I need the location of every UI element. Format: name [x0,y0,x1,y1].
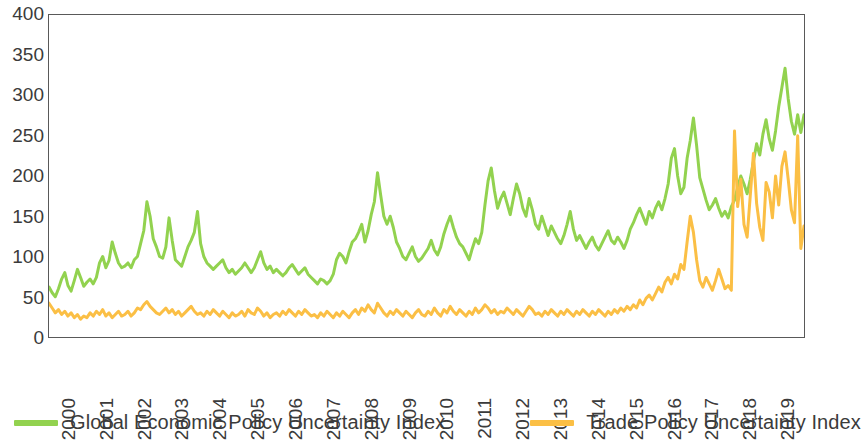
y-axis-tick-label: 200 [12,166,44,185]
legend-entry-trade-policy-uncertainty-index: Trade Policy Uncertainty Index [530,411,861,434]
x-axis-tick-labels: 2000200120022003200420052006200720082009… [48,340,805,402]
y-axis-tick-labels: 050100150200250300350400 [0,0,44,340]
y-axis-tick-label: 250 [12,126,44,145]
legend-label-trade-policy-uncertainty-index: Trade Policy Uncertainty Index [586,411,861,434]
legend-swatch-orange-line [530,420,574,426]
plot-area [48,14,805,338]
legend-label-global-economic-policy-uncertainty-index: Global Economic Policy Uncertainty Index [70,411,445,434]
y-axis-tick-label: 400 [12,4,44,23]
y-axis-tick-label: 150 [12,207,44,226]
y-axis-tick-label: 350 [12,45,44,64]
legend-entry-global-economic-policy-uncertainty-index: Global Economic Policy Uncertainty Index [14,411,445,434]
y-axis-tick-label: 50 [23,288,44,307]
legend-swatch-green-line [14,420,58,426]
plot-svg [49,15,804,337]
series-line-global-economic-policy-uncertainty-index [49,68,804,297]
series-line-trade-policy-uncertainty-index [49,131,804,319]
y-axis-tick-label: 0 [33,328,44,347]
y-axis-tick-label: 100 [12,247,44,266]
y-axis-tick-label: 300 [12,85,44,104]
chart-legend: Global Economic Policy Uncertainty Index… [0,405,819,440]
